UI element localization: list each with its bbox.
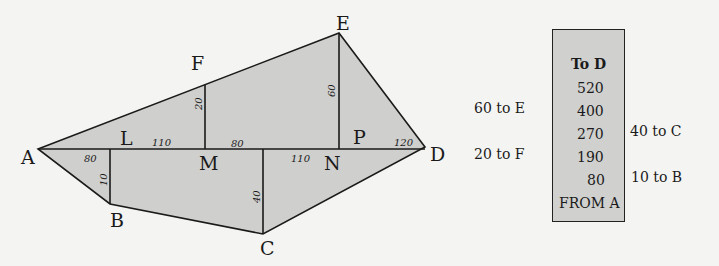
- vertex-label-C: C: [260, 237, 275, 259]
- vertex-label-F: F: [191, 52, 204, 74]
- measure-C-N: 110: [291, 153, 311, 164]
- offset-10-to-B: 10 to B: [631, 169, 682, 185]
- chainage-270: 270: [577, 126, 604, 142]
- vertex-label-L: L: [120, 127, 133, 149]
- offset-40-to-C: 40 to C: [630, 123, 681, 139]
- measure-MF: 20: [193, 97, 204, 111]
- measure-LM: 110: [152, 137, 172, 148]
- offset-20-to-F: 20 to F: [474, 146, 524, 162]
- field-polygon: [38, 33, 425, 234]
- chainage-80: 80: [587, 172, 605, 188]
- offset-60-to-E: 60 to E: [474, 100, 525, 116]
- measure-C-offset: 40: [251, 190, 262, 204]
- vertex-label-P: P: [353, 126, 366, 148]
- chainage-400: 400: [577, 103, 604, 119]
- vertex-label-E: E: [336, 12, 350, 34]
- vertex-label-A: A: [20, 146, 35, 168]
- measure-LB: 10: [98, 173, 109, 186]
- vertex-label-B: B: [110, 209, 124, 231]
- measure-PD: 120: [394, 137, 414, 148]
- field-book-header: To D: [571, 56, 606, 72]
- field-book-footer: FROM A: [559, 195, 620, 211]
- vertex-label-N: N: [324, 152, 341, 174]
- vertex-label-D: D: [430, 143, 445, 165]
- measure-NE: 60: [326, 84, 337, 97]
- field-book: To D 520 400 270 190 80 FROM A: [552, 29, 625, 222]
- chainage-520: 520: [577, 80, 604, 96]
- measure-AL: 80: [84, 153, 97, 164]
- vertex-label-M: M: [199, 152, 218, 174]
- chainage-190: 190: [577, 149, 604, 165]
- measure-M-C: 80: [231, 138, 244, 149]
